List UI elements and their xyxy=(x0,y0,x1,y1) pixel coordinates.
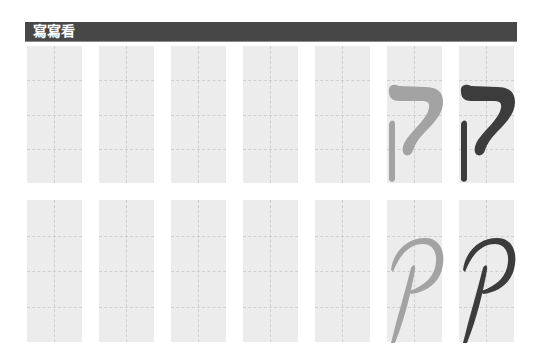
guide-line-horizontal xyxy=(171,271,226,272)
guide-line-horizontal xyxy=(99,80,154,81)
guide-line-horizontal xyxy=(99,236,154,237)
guide-line-horizontal xyxy=(315,307,370,308)
guide-line-horizontal xyxy=(315,149,370,150)
guide-line-horizontal xyxy=(315,236,370,237)
guide-line-horizontal xyxy=(27,236,82,237)
section-title: 寫寫看 xyxy=(33,22,75,41)
writing-box-empty xyxy=(315,46,370,183)
guide-line-horizontal xyxy=(99,307,154,308)
writing-box-empty xyxy=(171,200,226,342)
guide-line-horizontal xyxy=(315,115,370,116)
qof-print-glyph xyxy=(385,46,455,186)
guide-line-horizontal xyxy=(243,307,298,308)
writing-box-trace xyxy=(387,46,442,183)
guide-line-horizontal xyxy=(243,115,298,116)
qof-print-glyph xyxy=(457,46,527,186)
writing-box-trace xyxy=(387,200,442,342)
guide-line-horizontal xyxy=(243,80,298,81)
guide-line-horizontal xyxy=(315,271,370,272)
guide-line-horizontal xyxy=(99,149,154,150)
writing-box-empty xyxy=(171,46,226,183)
section-header: 寫寫看 xyxy=(25,22,517,42)
guide-line-horizontal xyxy=(27,149,82,150)
guide-line-horizontal xyxy=(27,307,82,308)
writing-box-empty xyxy=(27,46,82,183)
guide-line-horizontal xyxy=(243,236,298,237)
writing-box-empty xyxy=(243,200,298,342)
writing-box-empty xyxy=(315,200,370,342)
writing-box-model xyxy=(459,46,514,183)
guide-line-horizontal xyxy=(243,271,298,272)
writing-box-empty xyxy=(99,200,154,342)
guide-line-horizontal xyxy=(27,271,82,272)
guide-line-horizontal xyxy=(27,80,82,81)
guide-line-horizontal xyxy=(315,80,370,81)
guide-line-horizontal xyxy=(243,149,298,150)
guide-line-horizontal xyxy=(171,236,226,237)
guide-line-horizontal xyxy=(27,115,82,116)
qof-cursive-glyph xyxy=(455,200,525,345)
guide-line-horizontal xyxy=(171,307,226,308)
guide-line-horizontal xyxy=(99,271,154,272)
writing-box-empty xyxy=(243,46,298,183)
writing-box-empty xyxy=(27,200,82,342)
guide-line-horizontal xyxy=(171,80,226,81)
writing-box-model xyxy=(459,200,514,342)
guide-line-horizontal xyxy=(171,115,226,116)
writing-box-empty xyxy=(99,46,154,183)
qof-cursive-glyph xyxy=(383,200,453,345)
guide-line-horizontal xyxy=(171,149,226,150)
guide-line-horizontal xyxy=(99,115,154,116)
